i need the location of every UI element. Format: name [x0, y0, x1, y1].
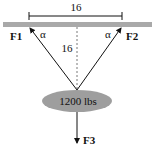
force-f1-arrow — [30, 28, 77, 90]
ceiling-beam — [3, 22, 152, 27]
vertical-dimension-label: 16 — [62, 42, 74, 54]
top-dimension-label: 16 — [71, 1, 83, 13]
force-f3-label: F3 — [83, 134, 96, 146]
force-f1-label: F1 — [10, 30, 22, 42]
angle-right-label: α — [105, 28, 111, 40]
top-dimension-line — [29, 12, 122, 20]
force-diagram: 16 16 F1 α α F2 1200 lbs F3 — [0, 0, 159, 148]
force-f2-arrow — [77, 28, 121, 90]
angle-left-label: α — [40, 28, 46, 40]
force-f2-label: F2 — [126, 30, 139, 42]
weight-label: 1200 lbs — [59, 95, 97, 107]
